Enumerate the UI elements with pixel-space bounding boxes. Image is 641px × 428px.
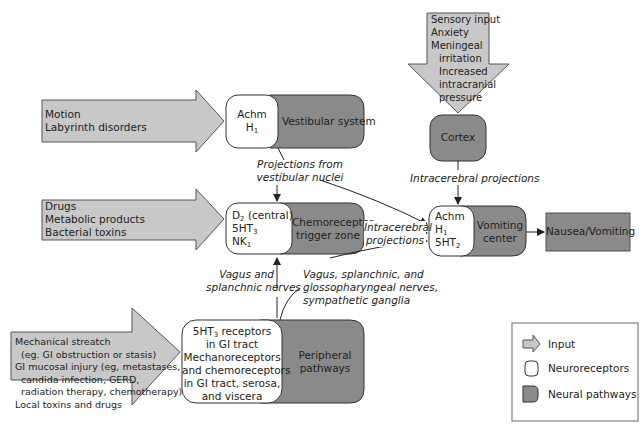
ctz-receptors: D2 (central) 5HT3 NK1 xyxy=(232,209,293,248)
input-drugs-text: Drugs Metabolic products Bacterial toxin… xyxy=(45,200,145,239)
peripheral-receptors: 5HT3 receptors in GI tract Mechanorecept… xyxy=(182,325,282,403)
legend-input-label: Input xyxy=(548,338,575,351)
nausea-vomiting-label: Nausea/Vomiting xyxy=(546,225,630,238)
edge-label-vagus-glossopharyngeal: Vagus, splanchnic, and glossopharyngeal … xyxy=(303,268,438,307)
edge-label-ctz-projections: Intracerebral projections xyxy=(364,221,426,247)
ctz-label: Chemoreceptor trigger zone xyxy=(292,216,364,242)
pathway-box-icon xyxy=(523,386,538,402)
input-motion-text: Motion Labyrinth disorders xyxy=(45,108,147,134)
edge-label-cortex-projections: Intracerebral projections xyxy=(410,172,539,185)
input-gi-text: Mechanical streatch (eg. GI obstruction … xyxy=(15,336,182,411)
vestibular-system-label: Vestibular system xyxy=(282,115,376,128)
vomiting-center-label: Vomiting center xyxy=(474,219,526,245)
legend-neuroreceptors-label: Neuroreceptors xyxy=(548,362,629,375)
legend-neural-pathways-label: Neural pathways xyxy=(548,388,637,401)
rounded-box-icon xyxy=(525,361,538,376)
edge-label-vestibular-nuclei: Projections from vestibular nuclei xyxy=(245,158,355,184)
edge-label-vagus-splanchnic: Vagus and splanchnic nerves xyxy=(206,268,274,294)
vestibular-receptors: Achm H1 xyxy=(226,108,278,134)
cortex-label: Cortex xyxy=(430,131,486,144)
vomiting-receptors: Achm H1 5HT2 xyxy=(435,210,465,249)
input-sensory-text: Sensory input Anxiety Meningeal irritati… xyxy=(431,13,500,104)
peripheral-pathways-label: Peripheral pathways xyxy=(290,349,360,375)
